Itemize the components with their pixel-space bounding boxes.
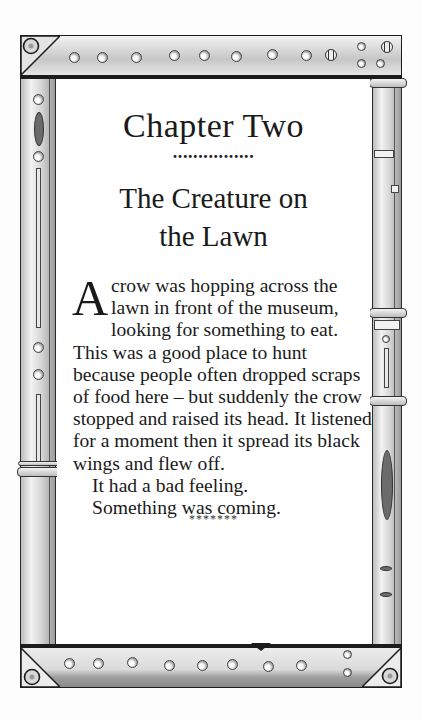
- chapter-number: Chapter Two: [57, 107, 370, 145]
- left-post-slot-lower: [36, 394, 41, 462]
- page-content: Chapter Two ................ The Creatur…: [57, 80, 370, 643]
- rivet-icon: [267, 49, 278, 60]
- right-post-groove: [394, 80, 395, 648]
- rivet-icon: [93, 658, 104, 669]
- oval-inset-icon: [381, 450, 393, 520]
- paragraph-2: It had a bad feeling.: [73, 475, 373, 497]
- right-collar-top: [369, 78, 407, 88]
- rivet-icon: [343, 650, 352, 659]
- chapter-title-line-1: The Creature on: [57, 179, 370, 217]
- rivet-icon: [33, 369, 44, 380]
- chapter-title: The Creature on the Lawn: [57, 179, 370, 255]
- right-post-sleeve: [374, 320, 400, 330]
- rivet-icon: [199, 50, 210, 61]
- rivet-icon: [197, 660, 208, 671]
- oval-inset-icon: [380, 592, 392, 597]
- rivet-icon: [357, 42, 366, 51]
- oval-inset-icon: [380, 566, 392, 571]
- left-post: [20, 75, 56, 650]
- screw-icon: [381, 41, 393, 53]
- body-text: A crow was hopping across the lawn in fr…: [73, 275, 373, 519]
- rivet-icon: [33, 342, 44, 353]
- right-post: [372, 79, 402, 649]
- left-collar-top: [18, 461, 60, 466]
- rivet-icon: [231, 51, 242, 62]
- rivet-icon: [301, 50, 312, 61]
- paragraph-1: A crow was hopping across the lawn in fr…: [73, 275, 373, 475]
- rivet-icon: [33, 94, 44, 105]
- left-post-slot-upper: [36, 168, 41, 328]
- drop-cap: A: [72, 278, 108, 320]
- rivet-icon: [357, 59, 366, 68]
- notch-icon: [251, 643, 271, 653]
- rivet-icon: [263, 661, 274, 672]
- top-bar: [20, 35, 402, 79]
- right-collar-mid: [369, 308, 407, 318]
- rivet-icon: [33, 151, 44, 162]
- corner-bracket-icon: [20, 35, 60, 75]
- rivet-icon: [376, 59, 385, 68]
- rivet-icon: [131, 52, 142, 63]
- right-post-band: [391, 185, 399, 193]
- corner-bracket-icon: [362, 648, 402, 688]
- rivet-icon: [296, 660, 307, 671]
- chapter-title-line-2: the Lawn: [57, 217, 370, 255]
- left-post-groove: [49, 76, 50, 649]
- rivet-icon: [382, 335, 390, 343]
- screw-icon: [325, 49, 337, 61]
- rivet-icon: [227, 659, 238, 670]
- book-page: Chapter Two ................ The Creatur…: [0, 0, 422, 720]
- rivet-icon: [97, 52, 108, 63]
- scene-break: *******: [57, 512, 370, 527]
- right-post-slot: [384, 348, 389, 388]
- oval-inset-icon: [34, 112, 44, 146]
- corner-bracket-icon: [20, 648, 60, 688]
- rivet-icon: [64, 658, 75, 669]
- right-collar-lower: [369, 396, 407, 406]
- rivet-icon: [69, 52, 80, 63]
- rivet-icon: [164, 660, 175, 671]
- left-collar: [17, 467, 61, 477]
- rivet-icon: [169, 50, 180, 61]
- paragraph-1-text: crow was hopping across the lawn in fron…: [73, 275, 372, 474]
- bottom-bar: [20, 644, 402, 688]
- right-post-band: [374, 150, 394, 158]
- dotted-separator: ................: [57, 143, 370, 161]
- rivet-icon: [127, 657, 138, 668]
- rivet-icon: [343, 668, 352, 677]
